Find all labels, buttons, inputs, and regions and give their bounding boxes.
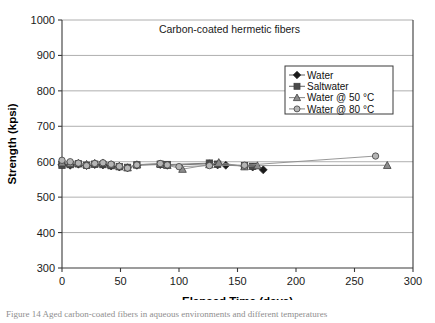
marker-circle [59,157,65,163]
x-tick-label: 50 [114,275,126,287]
strength-vs-time-chart: 3004005006007008009001000050100150200250… [0,0,435,300]
y-tick-label: 800 [37,85,55,97]
figure-caption: Figure 14 Aged carbon-coated fibers in a… [6,309,431,320]
x-tick-label: 100 [170,275,188,287]
marker-circle [134,162,140,168]
legend-label: Water @ 50 °C [307,92,374,103]
marker-circle [241,162,247,168]
marker-circle [67,159,73,165]
x-tick-label: 150 [228,275,246,287]
plot-title: Carbon-coated hermetic fibers [159,23,300,35]
marker-square [294,83,300,89]
legend-label: Water [307,70,334,81]
legend-label: Saltwater [307,81,349,92]
marker-circle [164,162,170,168]
x-tick-label: 200 [287,275,305,287]
x-tick-label: 0 [59,275,65,287]
y-tick-label: 400 [37,227,55,239]
marker-circle [294,106,300,112]
marker-circle [176,163,182,169]
y-axis-title: Strength (kpsi) [6,103,18,184]
y-tick-label: 500 [37,191,55,203]
chart-legend: WaterSaltwaterWater @ 50 °CWater @ 80 °C [285,66,393,115]
figure-container: 3004005006007008009001000050100150200250… [0,0,435,323]
marker-circle [100,160,106,166]
y-tick-label: 300 [37,262,55,274]
y-tick-label: 700 [37,120,55,132]
marker-circle [116,163,122,169]
y-tick-label: 900 [37,49,55,61]
marker-circle [206,162,212,168]
legend-label: Water @ 80 °C [307,104,374,115]
y-tick-label: 1000 [31,14,55,26]
x-tick-label: 250 [345,275,363,287]
x-tick-label: 300 [404,275,422,287]
marker-circle [83,162,89,168]
chart-canvas: 3004005006007008009001000050100150200250… [0,0,435,300]
x-axis-title: Elapsed Time (days) [182,295,293,300]
marker-circle [92,160,98,166]
marker-circle [75,160,81,166]
marker-circle [372,153,378,159]
marker-circle [157,160,163,166]
marker-circle [108,161,114,167]
y-tick-label: 600 [37,156,55,168]
marker-circle [124,165,130,171]
